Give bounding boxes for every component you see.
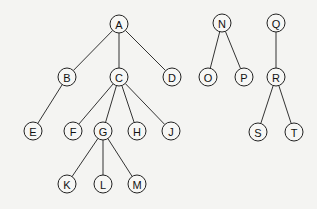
- nodes-layer: ABCDEFGHJKLMNOPQRST: [24, 14, 303, 193]
- node-label: A: [115, 19, 123, 31]
- node-e: E: [24, 122, 42, 140]
- node-label: B: [63, 72, 70, 84]
- edge-a-b: [73, 30, 112, 70]
- node-g: G: [94, 122, 112, 140]
- node-t: T: [285, 123, 303, 141]
- node-q: Q: [267, 14, 285, 32]
- node-s: S: [249, 123, 267, 141]
- node-label: E: [29, 126, 36, 138]
- edge-g-m: [108, 139, 132, 177]
- edge-r-s: [261, 86, 273, 124]
- node-label: J: [168, 126, 174, 138]
- edge-n-o: [210, 32, 219, 69]
- edge-c-j: [125, 83, 165, 124]
- edge-c-f: [79, 84, 113, 124]
- node-l: L: [94, 175, 112, 193]
- edge-r-t: [279, 86, 291, 124]
- node-label: H: [133, 126, 141, 138]
- node-j: J: [162, 122, 180, 140]
- node-label: Q: [272, 18, 281, 30]
- node-label: P: [240, 72, 247, 84]
- node-label: C: [115, 72, 123, 84]
- node-n: N: [213, 14, 231, 32]
- node-a: A: [110, 15, 128, 33]
- node-label: R: [272, 72, 280, 84]
- node-label: T: [291, 127, 298, 139]
- node-c: C: [110, 68, 128, 86]
- edges-layer: [38, 30, 291, 176]
- tree-diagram: ABCDEFGHJKLMNOPQRST: [0, 0, 317, 209]
- node-label: S: [254, 127, 261, 139]
- node-r: R: [267, 68, 285, 86]
- edge-n-p: [225, 31, 240, 68]
- node-d: D: [163, 68, 181, 86]
- edge-b-e: [38, 85, 62, 124]
- node-label: O: [204, 72, 213, 84]
- node-label: N: [218, 18, 226, 30]
- node-m: M: [128, 175, 146, 193]
- node-p: P: [235, 68, 253, 86]
- edge-a-d: [125, 30, 165, 70]
- node-label: M: [132, 179, 141, 191]
- node-b: B: [58, 68, 76, 86]
- node-label: F: [70, 126, 77, 138]
- node-h: H: [128, 122, 146, 140]
- node-o: O: [199, 68, 217, 86]
- node-label: D: [168, 72, 176, 84]
- edge-g-k: [72, 138, 98, 176]
- node-f: F: [64, 122, 82, 140]
- node-k: K: [58, 175, 76, 193]
- node-label: L: [100, 179, 106, 191]
- node-label: K: [63, 179, 71, 191]
- node-label: G: [99, 126, 108, 138]
